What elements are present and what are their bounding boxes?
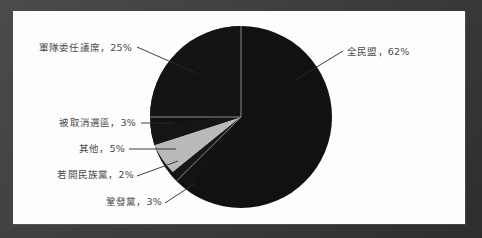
pie-slice-army-seats[interactable] [150,26,241,117]
pie-label-nld: 全民盟，62% [347,46,410,58]
pie-label-army-seats: 軍隊委任議席，25% [39,42,132,54]
pie-label-other: 其他，5% [79,143,125,155]
pie-label-usdp: 鞏發黨，3% [106,196,162,208]
pie-chart-plot-area: 軍隊委任議席，25% 全民盟，62% 被取消選區，3% 其他，5% 若開民族黨，… [13,11,465,224]
pie-label-arakan: 若開民族黨，2% [57,169,134,181]
pie-label-cancelled: 被取消選區，3% [59,117,136,129]
leader-line-usdp [165,184,194,203]
chart-panel: 軍隊委任議席，25% 全民盟，62% 被取消選區，3% 其他，5% 若開民族黨，… [13,11,465,224]
screenshot-root: 軍隊委任議席，25% 全民盟，62% 被取消選區，3% 其他，5% 若開民族黨，… [0,0,482,238]
